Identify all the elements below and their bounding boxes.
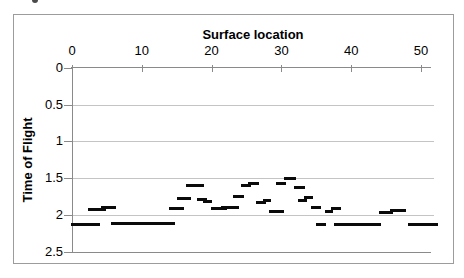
x-tick-20 bbox=[212, 65, 213, 72]
data-dash-8 bbox=[203, 200, 212, 203]
data-dash-10 bbox=[221, 206, 238, 209]
data-dash-11 bbox=[233, 195, 244, 198]
y-axis-title: Time of Flight bbox=[20, 118, 35, 203]
data-dash-16 bbox=[269, 210, 284, 213]
x-axis-line bbox=[71, 67, 431, 68]
chart-figure: Surface location Time of Flight 01020304… bbox=[0, 0, 464, 278]
data-dash-3 bbox=[111, 222, 175, 225]
x-tick-30 bbox=[281, 65, 282, 72]
data-dash-0 bbox=[71, 223, 100, 226]
data-dash-6 bbox=[186, 184, 204, 187]
x-tick-label-20: 20 bbox=[195, 44, 229, 58]
y-tick-1 bbox=[64, 141, 72, 142]
gridline-y-2 bbox=[71, 215, 434, 216]
data-dash-19 bbox=[294, 186, 305, 189]
data-dash-23 bbox=[316, 223, 326, 226]
data-dash-2 bbox=[101, 206, 116, 209]
x-tick-label-40: 40 bbox=[334, 44, 368, 58]
x-tick-40 bbox=[351, 65, 352, 72]
gridline-y-1 bbox=[71, 141, 434, 142]
y-tick-label-1.5: 1.5 bbox=[23, 171, 63, 185]
y-tick-label-1: 1 bbox=[23, 134, 63, 148]
data-dash-25 bbox=[331, 207, 341, 210]
gridline-y-0.5 bbox=[71, 105, 434, 106]
y-tick-label-0: 0 bbox=[23, 61, 63, 75]
y-tick-label-2: 2 bbox=[23, 208, 63, 222]
data-dash-5 bbox=[177, 197, 190, 200]
data-dash-26 bbox=[334, 223, 381, 226]
data-dash-21 bbox=[304, 196, 313, 199]
x-tick-label-0: 0 bbox=[55, 44, 89, 58]
x-tick-label-50: 50 bbox=[404, 44, 438, 58]
data-dash-15 bbox=[263, 199, 271, 202]
data-dash-4 bbox=[169, 207, 184, 210]
x-tick-0 bbox=[72, 65, 73, 72]
data-dash-18 bbox=[284, 177, 296, 180]
data-dash-17 bbox=[276, 182, 286, 185]
chart-title: Surface location bbox=[72, 27, 434, 42]
gridline-y-1.5 bbox=[71, 178, 434, 179]
x-tick-label-10: 10 bbox=[125, 44, 159, 58]
x-tick-10 bbox=[142, 65, 143, 72]
y-tick-label-2.5: 2.5 bbox=[23, 245, 63, 259]
x-tick-label-30: 30 bbox=[264, 44, 298, 58]
y-tick-2.5 bbox=[64, 252, 72, 253]
y-tick-0.5 bbox=[64, 105, 72, 106]
data-dash-29 bbox=[408, 223, 437, 226]
data-dash-28 bbox=[390, 209, 406, 212]
y-tick-0 bbox=[64, 68, 72, 69]
stray-mark bbox=[32, 0, 38, 3]
y-tick-label-0.5: 0.5 bbox=[23, 98, 63, 112]
y-tick-1.5 bbox=[64, 178, 72, 179]
data-dash-22 bbox=[311, 206, 321, 209]
data-dash-13 bbox=[248, 182, 259, 185]
bottom-axis-line bbox=[71, 252, 431, 253]
x-tick-50 bbox=[421, 65, 422, 72]
y-tick-2 bbox=[64, 215, 72, 216]
